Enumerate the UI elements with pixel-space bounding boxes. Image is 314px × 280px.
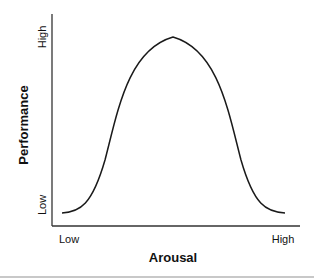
- y-axis-title: Performance: [16, 85, 31, 164]
- y-high-label: High: [36, 26, 48, 49]
- x-axis-title: Arousal: [149, 250, 197, 265]
- x-low-label: Low: [59, 233, 79, 245]
- inverted-u-curve: [62, 37, 285, 213]
- chart: High Low Performance Low High Arousal: [0, 0, 314, 280]
- bottom-divider: [0, 276, 314, 278]
- x-high-label: High: [272, 233, 295, 245]
- y-low-label: Low: [36, 195, 48, 215]
